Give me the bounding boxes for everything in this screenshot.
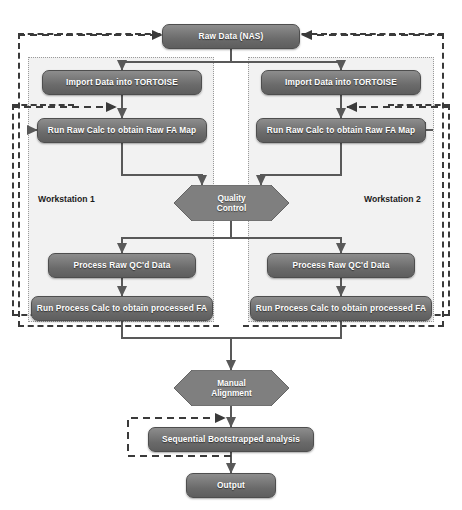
hexagon-shape: [174, 370, 289, 406]
node-process-qc-right[interactable]: Process Raw QC'd Data: [267, 253, 415, 278]
workstation-2-label: Workstation 2: [364, 194, 421, 204]
node-bootstrap-analysis[interactable]: Sequential Bootstrapped analysis: [148, 427, 314, 452]
node-output[interactable]: Output: [186, 473, 276, 498]
node-raw-calc-right[interactable]: Run Raw Calc to obtain Raw FA Map: [256, 118, 426, 143]
node-raw-data[interactable]: Raw Data (NAS): [162, 24, 300, 49]
hexagon-shape: [174, 185, 289, 221]
node-process-calc-right[interactable]: Run Process Calc to obtain processed FA: [250, 296, 432, 321]
node-import-right[interactable]: Import Data into TORTOISE: [261, 70, 421, 95]
node-process-qc-left[interactable]: Process Raw QC'd Data: [48, 253, 196, 278]
node-quality-control[interactable]: Quality Control: [174, 185, 289, 221]
workstation-1-label: Workstation 1: [38, 194, 95, 204]
node-import-left[interactable]: Import Data into TORTOISE: [42, 70, 202, 95]
node-raw-calc-left[interactable]: Run Raw Calc to obtain Raw FA Map: [37, 118, 207, 143]
flowchart-canvas: Raw Data (NAS) Import Data into TORTOISE…: [0, 0, 462, 510]
node-process-calc-left[interactable]: Run Process Calc to obtain processed FA: [31, 296, 213, 321]
node-manual-alignment[interactable]: Manual Alignment: [174, 370, 289, 406]
